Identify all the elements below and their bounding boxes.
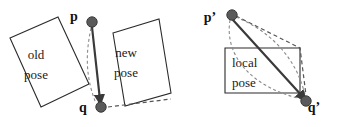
new-pose-box bbox=[113, 19, 171, 106]
figure-canvas: old pose new pose p q local pose bbox=[0, 0, 340, 127]
p-prime-point-dot bbox=[227, 10, 237, 20]
q-prime-point-label: q’ bbox=[308, 100, 320, 115]
new-pose-label-line2: pose bbox=[114, 65, 138, 80]
right-panel-local-frame: local pose p’ q’ bbox=[204, 10, 320, 115]
p-point-label: p bbox=[70, 9, 78, 24]
old-pose-box bbox=[10, 17, 89, 107]
pose-transformation-figure: old pose new pose p q local pose bbox=[0, 0, 340, 127]
old-pose-label-line1: old bbox=[28, 47, 45, 62]
p-prime-point-label: p’ bbox=[204, 10, 216, 25]
q-horizontal-dashed-line bbox=[108, 99, 171, 107]
new-pose-label-line1: new bbox=[115, 45, 137, 60]
local-pose-label-line1: local bbox=[232, 55, 258, 70]
local-pose-label-line2: pose bbox=[232, 75, 256, 90]
q-point-dot bbox=[96, 102, 106, 112]
p-to-q-vector-arrow bbox=[92, 27, 100, 100]
q-point-label: q bbox=[79, 100, 87, 115]
old-pose-label-line2: pose bbox=[24, 67, 48, 82]
p-point-dot bbox=[87, 17, 97, 27]
left-panel-global-frame: old pose new pose p q bbox=[10, 9, 171, 115]
